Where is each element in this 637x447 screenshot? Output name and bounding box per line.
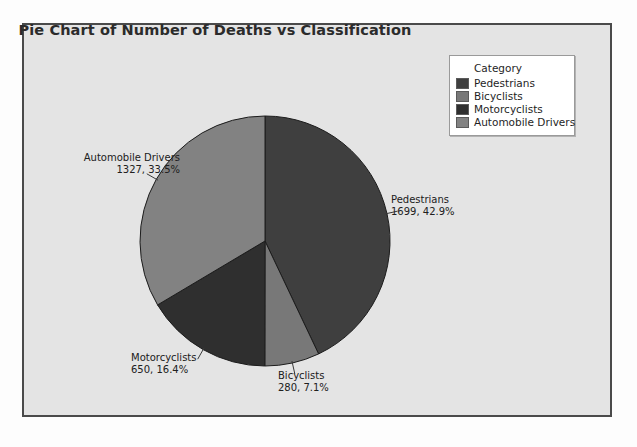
- slice-label-value: 1699, 42.9%: [391, 206, 455, 218]
- legend-item[interactable]: Automobile Drivers: [456, 116, 568, 128]
- legend-swatch-icon: [456, 104, 469, 115]
- legend-swatch-icon: [456, 117, 469, 128]
- slice-label-pedestrians: Pedestrians 1699, 42.9%: [391, 194, 455, 218]
- slice-label-value: 280, 7.1%: [278, 382, 329, 394]
- slice-label-bicyclists: Bicyclists 280, 7.1%: [278, 370, 329, 394]
- slice-label-name: Automobile Drivers: [58, 152, 180, 164]
- legend-swatch-icon: [456, 91, 469, 102]
- slice-label-name: Pedestrians: [391, 194, 455, 206]
- legend-rows: PedestriansBicyclistsMotorcyclistsAutomo…: [456, 77, 568, 128]
- slice-label-name: Motorcyclists: [131, 352, 197, 364]
- slice-label-value: 650, 16.4%: [131, 364, 197, 376]
- legend-item-label: Bicyclists: [474, 90, 523, 102]
- leader-line-motorcyclists: [198, 348, 204, 359]
- legend-item[interactable]: Bicyclists: [456, 90, 568, 102]
- legend-item-label: Motorcyclists: [474, 103, 543, 115]
- slice-label-value: 1327, 33.5%: [58, 164, 180, 176]
- legend-item[interactable]: Pedestrians: [456, 77, 568, 89]
- legend-item-label: Pedestrians: [474, 77, 535, 89]
- screenshot-canvas: Pie Chart of Number of Deaths vs Classif…: [0, 0, 637, 447]
- legend-item-label: Automobile Drivers: [474, 116, 575, 128]
- legend-title: Category: [474, 62, 568, 74]
- legend-swatch-icon: [456, 78, 469, 89]
- chart-legend: Category PedestriansBicyclistsMotorcycli…: [449, 55, 575, 136]
- legend-item[interactable]: Motorcyclists: [456, 103, 568, 115]
- slice-label-motorcyclists: Motorcyclists 650, 16.4%: [131, 352, 197, 376]
- slice-label-name: Bicyclists: [278, 370, 329, 382]
- slice-label-automobile-drivers: Automobile Drivers 1327, 33.5%: [58, 152, 180, 176]
